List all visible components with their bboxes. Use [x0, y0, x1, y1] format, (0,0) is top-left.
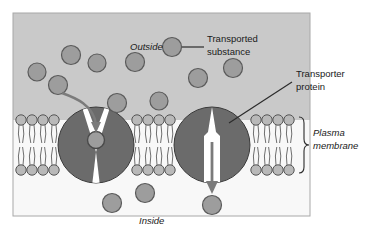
diagram-canvas: Outside Inside Transported substance Tra…: [0, 0, 366, 243]
substance-circle: [62, 46, 81, 65]
substance-circle: [88, 54, 106, 72]
plasma-membrane-label-line1: Plasma: [313, 127, 345, 138]
substance-circle: [150, 92, 168, 110]
transport-diagram-figure: Outside Inside Transported substance Tra…: [0, 0, 366, 243]
transported-substance-label-line2: substance: [207, 46, 250, 57]
substance-circle: [136, 184, 155, 203]
plasma-membrane-label-line2: membrane: [313, 140, 358, 151]
transporter-protein-label-line1: Transporter: [296, 68, 345, 79]
outside-label: Outside: [130, 41, 163, 52]
transporter-protein-label-line2: protein: [296, 81, 325, 92]
substance-circle: [224, 59, 243, 78]
substance-in-left-channel: [88, 132, 105, 149]
substance-circle: [163, 38, 182, 57]
substance-circle: [103, 194, 122, 213]
substance-circle: [108, 94, 127, 113]
substance-circle: [189, 69, 208, 88]
substance-circle: [49, 76, 68, 95]
substance-circle: [28, 63, 46, 81]
transported-substance-label-line1: Transported: [207, 33, 258, 44]
substance-circle: [126, 53, 145, 72]
inside-label: Inside: [139, 215, 164, 226]
substance-circle: [203, 196, 222, 215]
